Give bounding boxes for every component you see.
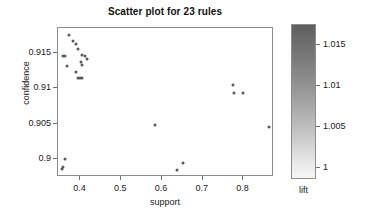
x-axis-tick-mark <box>120 176 121 180</box>
data-point <box>65 64 68 67</box>
data-point <box>176 168 179 171</box>
colorbar-tick-mark <box>316 85 320 86</box>
x-axis-tick-label: 0.8 <box>236 183 249 193</box>
data-point <box>85 57 88 60</box>
data-point <box>232 91 235 94</box>
x-axis-tick-label: 0.7 <box>195 183 208 193</box>
data-point <box>74 43 77 46</box>
page-title: Scatter plot for 23 rules <box>57 6 273 17</box>
x-axis-tick-label: 0.6 <box>155 183 168 193</box>
y-axis-tick-label: 0.905 <box>4 118 51 128</box>
x-axis-tick-mark <box>79 176 80 180</box>
colorbar-tick-mark <box>316 167 320 168</box>
x-axis-tick-mark <box>161 176 162 180</box>
colorbar-label: lift <box>291 185 316 195</box>
colorbar-tick-mark <box>316 44 320 45</box>
data-point <box>267 125 270 128</box>
y-axis-tick-label: 0.9 <box>4 153 51 163</box>
data-point <box>81 63 84 66</box>
x-axis-label: support <box>57 197 273 207</box>
data-point <box>181 161 184 164</box>
y-axis-tick-mark <box>53 158 57 159</box>
x-axis-tick-label: 0.4 <box>73 183 86 193</box>
data-point <box>154 124 157 127</box>
x-axis-tick-mark <box>242 176 243 180</box>
data-point <box>76 48 79 51</box>
y-axis-tick-label: 0.91 <box>4 82 51 92</box>
colorbar-gradient <box>291 24 316 179</box>
data-point <box>60 168 63 171</box>
x-axis-tick-label: 0.5 <box>114 183 127 193</box>
data-point <box>242 92 245 95</box>
colorbar-tick-label: 1 <box>323 162 328 172</box>
scatter-plot-figure: Scatter plot for 23 rules confidence 0.9… <box>0 0 367 219</box>
colorbar-tick-mark <box>316 126 320 127</box>
data-point <box>63 55 66 58</box>
y-axis-tick-mark <box>53 52 57 53</box>
data-point <box>64 157 67 160</box>
data-points-layer <box>58 28 272 175</box>
data-point <box>231 84 234 87</box>
x-axis-tick-mark <box>202 176 203 180</box>
data-point <box>81 77 84 80</box>
data-point <box>72 39 75 42</box>
colorbar-tick-label: 1.005 <box>323 121 346 131</box>
data-point <box>75 70 78 73</box>
y-axis-tick-mark <box>53 123 57 124</box>
plot-area <box>57 27 273 176</box>
y-axis-tick-mark <box>53 87 57 88</box>
colorbar-tick-label: 1.01 <box>323 80 341 90</box>
data-point <box>68 34 71 37</box>
colorbar-tick-label: 1.015 <box>323 39 346 49</box>
y-axis-tick-label: 0.915 <box>4 47 51 57</box>
